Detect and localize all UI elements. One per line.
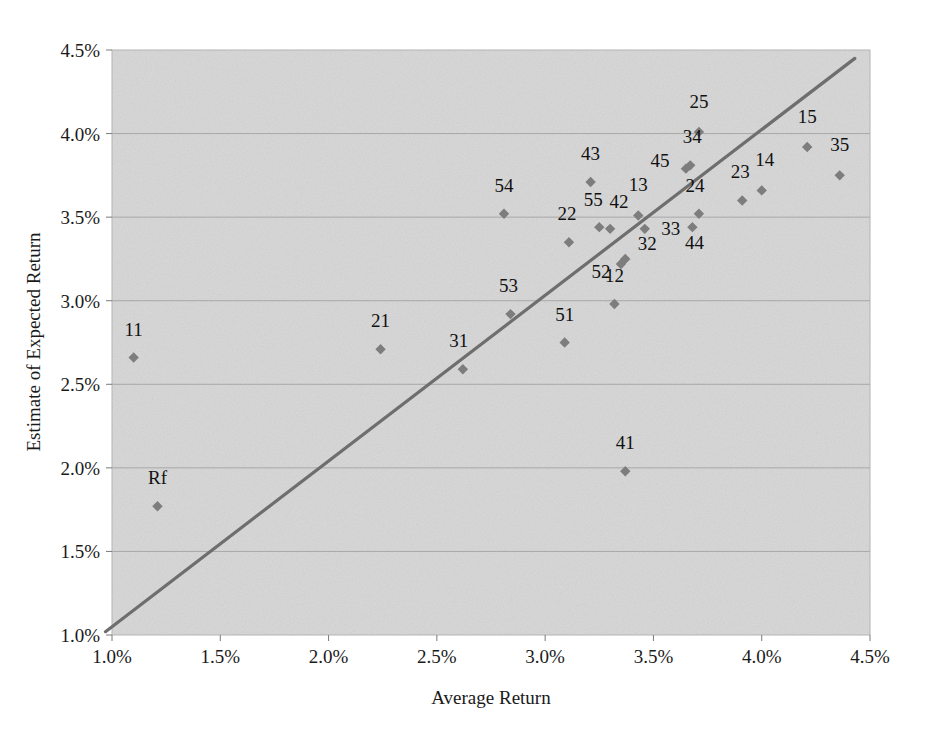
data-point-label: 32 [638,233,657,254]
data-point-label: 11 [125,319,143,340]
data-point-label: 34 [683,126,703,147]
y-tick-label: 2.0% [60,458,100,479]
data-point-label: 43 [581,143,600,164]
x-tick-label: 3.0% [525,646,565,667]
x-tick-label: 2.0% [309,646,349,667]
data-point-label: 23 [731,161,750,182]
data-point-label: 14 [755,149,775,170]
x-tick-label: 1.5% [200,646,240,667]
data-point-label: 13 [629,174,648,195]
y-tick-label: 3.0% [60,291,100,312]
data-point-label: Rf [148,467,168,488]
data-point-label: 42 [610,191,629,212]
plot-background [112,50,870,635]
y-tick-label: 1.5% [60,541,100,562]
x-tick-label: 4.5% [850,646,890,667]
data-point-label: 41 [616,432,635,453]
x-axis-title: Average Return [431,687,551,708]
data-point-label: 53 [499,275,518,296]
data-point-label: 12 [605,265,624,286]
scatter-chart: 1.0%1.5%2.0%2.5%3.0%3.5%4.0%4.5% 1.0%1.5… [0,0,940,746]
data-point-label: 22 [557,203,576,224]
x-tick-label: 3.5% [634,646,674,667]
data-point-label: 54 [494,175,514,196]
y-tick-label: 4.5% [60,40,100,61]
y-tick-label: 2.5% [60,374,100,395]
data-point-label: 31 [449,330,468,351]
data-point-label: 25 [689,91,708,112]
data-point-label: 45 [650,150,669,171]
data-point-label: 51 [555,304,574,325]
y-axis-title: Estimate of Expected Return [23,232,44,451]
x-tick-label: 4.0% [742,646,782,667]
data-point-label: 21 [371,310,390,331]
data-point-label: 15 [798,106,817,127]
y-tick-label: 1.0% [60,625,100,646]
x-tick-label: 2.5% [417,646,457,667]
data-point-label: 55 [584,189,603,210]
data-point-label: 35 [830,134,849,155]
data-point-label: 44 [685,232,705,253]
y-tick-label: 3.5% [60,207,100,228]
plot-area [112,50,870,635]
x-tick-label: 1.0% [92,646,132,667]
data-point-label: 24 [685,175,705,196]
y-tick-label: 4.0% [60,124,100,145]
data-point-label: 33 [661,218,680,239]
chart-page: 1.0%1.5%2.0%2.5%3.0%3.5%4.0%4.5% 1.0%1.5… [0,0,940,746]
